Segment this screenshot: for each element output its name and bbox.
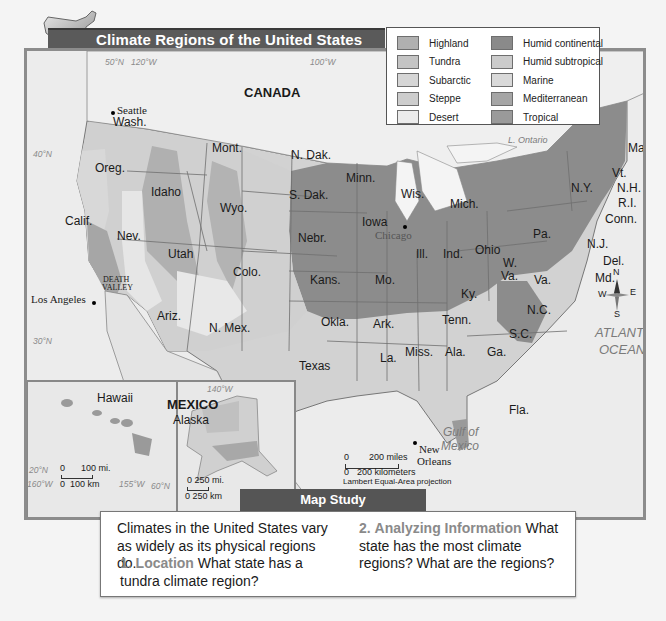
state-colo: Colo.: [233, 265, 261, 279]
state-nj: N.J.: [587, 237, 608, 251]
swatch-humid-continental: [491, 36, 513, 50]
coord-30n: 30°N: [33, 336, 52, 346]
city-new-orleans-2: Orleans: [417, 455, 451, 467]
swatch-subarctic: [397, 73, 419, 87]
state-minn: Minn.: [346, 171, 375, 185]
state-texas: Texas: [299, 359, 330, 373]
state-miss: Miss.: [405, 345, 433, 359]
state-wis: Wis.: [401, 187, 424, 201]
state-del: Del.: [603, 254, 624, 268]
swatch-humid-subtropical: [491, 55, 513, 69]
swatch-steppe: [397, 92, 419, 106]
city-los-angeles: Los Angeles: [31, 293, 86, 305]
legend-item-tropical: Tropical: [491, 108, 603, 127]
coord-50n: 50°N: [105, 57, 124, 67]
question-2-number: 2.: [359, 520, 371, 536]
city-chicago: Chicago: [375, 229, 412, 241]
coord-100w: 100°W: [310, 57, 336, 67]
state-pa: Pa.: [533, 227, 551, 241]
state-la: La.: [380, 351, 397, 365]
legend-item-humid-continental: Humid continental: [491, 34, 603, 53]
projection-label: Lambert Equal-Area projection: [343, 477, 452, 486]
question-2: 2. Analyzing Information What state has …: [359, 520, 569, 573]
state-fla: Fla.: [509, 403, 529, 417]
legend-item-humid-subtropical: Humid subtropical: [491, 53, 603, 72]
state-wva-1: W.: [503, 256, 517, 270]
swatch-tundra: [397, 55, 419, 69]
state-idaho: Idaho: [151, 185, 181, 199]
legend-item-subarctic: Subarctic: [397, 71, 471, 90]
coord-160w: 160°W: [27, 479, 53, 489]
state-nh: N.H.: [617, 181, 641, 195]
legend-item-marine: Marine: [491, 71, 603, 90]
map-study-box: Climates in the United States vary as wi…: [100, 511, 576, 597]
swatch-marine: [491, 73, 513, 87]
gulf-label-2: Mexico: [441, 439, 479, 453]
state-conn: Conn.: [605, 212, 637, 226]
alaska-scale-miles: 0 250 mi.: [187, 475, 224, 485]
state-utah: Utah: [168, 247, 193, 261]
scale-km: 200 kilometers: [357, 467, 416, 477]
state-nmex: N. Mex.: [209, 321, 250, 335]
state-ky: Ky.: [461, 287, 477, 301]
state-ri: R.I.: [618, 196, 637, 210]
ocean-label: OCEAN: [599, 342, 645, 357]
city-new-orleans-1: New: [419, 443, 440, 455]
state-ga: Ga.: [487, 345, 506, 359]
hawaii-scale-zero: 0: [60, 463, 65, 473]
state-sc: S.C.: [509, 327, 532, 341]
state-iowa: Iowa: [362, 215, 387, 229]
scale-zero-mi: 0: [344, 452, 349, 462]
state-nebr: Nebr.: [298, 231, 327, 245]
state-nc: N.C.: [527, 303, 551, 317]
state-ind: Ind.: [443, 247, 463, 261]
legend-item-desert: Desert: [397, 108, 471, 127]
compass-rose-icon: N S W E: [597, 273, 637, 317]
question-1: 1. Location What state has a tundra clim…: [120, 555, 330, 590]
state-tenn: Tenn.: [442, 313, 471, 327]
state-ny: N.Y.: [571, 181, 593, 195]
gulf-label-1: Gulf of: [443, 425, 478, 439]
state-alaska: Alaska: [173, 413, 209, 427]
alaska-scale-km: 0 250 km: [185, 491, 222, 501]
state-mich: Mich.: [450, 197, 479, 211]
state-ohio: Ohio: [475, 243, 500, 257]
legend-item-mediterranean: Mediterranean: [491, 90, 603, 109]
coord-40n: 40°N: [33, 149, 52, 159]
legend-item-steppe: Steppe: [397, 90, 471, 109]
coord-60n: 60°N: [151, 481, 170, 491]
question-2-heading: Analyzing Information: [375, 520, 522, 536]
state-mont: Mont.: [212, 141, 242, 155]
state-mo: Mo.: [375, 273, 395, 287]
state-wva-2: Va.: [501, 269, 518, 283]
canada-label: CANADA: [244, 85, 300, 100]
hawaii-scale-km: 0 100 km: [60, 479, 100, 489]
lake-ontario-label: L. Ontario: [508, 135, 548, 145]
mexico-label: MEXICO: [167, 397, 218, 412]
state-ala: Ala.: [445, 345, 466, 359]
state-kans: Kans.: [310, 273, 341, 287]
map-study-tab: Map Study: [240, 489, 426, 511]
state-wash: Wash.: [113, 115, 147, 129]
scale-zero-km: 0: [344, 467, 349, 477]
state-sdak: S. Dak.: [289, 188, 328, 202]
los-angeles-dot: [92, 301, 96, 305]
state-ill: Ill.: [416, 247, 428, 261]
scale-miles: 200 miles: [369, 452, 408, 462]
coord-20n: 20°N: [29, 465, 48, 475]
climate-legend: Highland Tundra Subarctic Steppe Desert …: [386, 27, 600, 125]
state-ndak: N. Dak.: [291, 148, 331, 162]
legend-item-tundra: Tundra: [397, 53, 471, 72]
state-ark: Ark.: [373, 317, 394, 331]
state-nev: Nev.: [117, 229, 141, 243]
state-calif: Calif.: [65, 214, 92, 228]
coord-155w: 155°W: [119, 479, 145, 489]
state-hawaii: Hawaii: [97, 391, 133, 405]
state-okla: Okla.: [321, 315, 349, 329]
state-va: Va.: [534, 273, 551, 287]
swatch-desert: [397, 110, 419, 124]
state-vt: Vt.: [612, 166, 627, 180]
state-ariz: Ariz.: [157, 309, 181, 323]
swatch-mediterranean: [491, 92, 513, 106]
coord-140w: 140°W: [207, 384, 233, 394]
